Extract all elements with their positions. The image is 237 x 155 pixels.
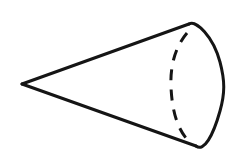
visible-base-arc <box>189 23 224 147</box>
hidden-base-arc <box>171 33 187 138</box>
cone-figure: Cone Line drawing of a three-dimensional… <box>0 0 237 155</box>
cone-drawing: Cone Line drawing of a three-dimensional… <box>0 0 237 155</box>
upper-slant-line <box>22 24 189 84</box>
